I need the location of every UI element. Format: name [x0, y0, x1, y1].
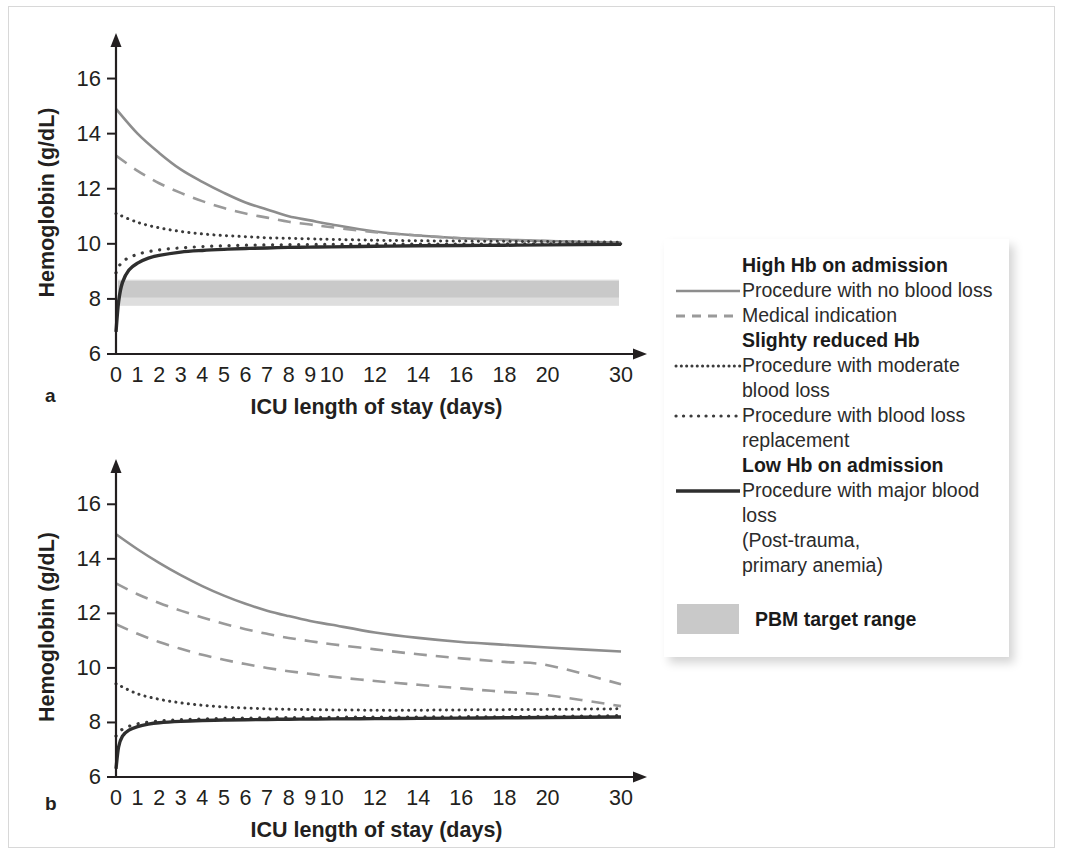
- y-axis-title: Hemoglobin (g/dL): [35, 532, 59, 722]
- x-tick-label: 2: [153, 363, 165, 387]
- x-tick-label: 14: [406, 786, 430, 810]
- legend-item[interactable]: Medical indication: [674, 303, 997, 328]
- y-tick-label: 16: [77, 491, 101, 516]
- series-line: [116, 214, 621, 243]
- legend-item-label: Procedure with moderate: [742, 353, 960, 378]
- x-tick-label: 16: [449, 786, 473, 810]
- x-tick-label: 30: [609, 786, 633, 810]
- legend-item-label-continued: primary anemia): [674, 553, 997, 578]
- x-axis-title: ICU length of stay (days): [250, 818, 502, 842]
- x-tick-label: 4: [196, 363, 208, 387]
- legend-band-sample: [674, 604, 742, 629]
- chart-panel-b: 6810121416012345678910121416182030ICU le…: [9, 447, 669, 857]
- legend-sample: [674, 303, 742, 328]
- legend-line-sample-solid-thick: [674, 478, 742, 503]
- legend-group-label: Low Hb on admission: [742, 453, 944, 478]
- legend-sample: [674, 403, 742, 428]
- y-axis-title: Hemoglobin (g/dL): [35, 108, 59, 298]
- legend-item[interactable]: Procedure with no blood loss: [674, 278, 997, 303]
- series-line: [116, 244, 621, 273]
- legend-item-label: Medical indication: [742, 303, 897, 328]
- x-tick-label: 7: [261, 786, 273, 810]
- legend-group-header: Low Hb on admission: [674, 453, 997, 478]
- y-tick-label: 14: [77, 121, 101, 146]
- legend-item-label: Procedure with major blood: [742, 478, 979, 503]
- x-tick-label: 20: [536, 363, 560, 387]
- x-tick-label: 6: [240, 786, 252, 810]
- legend-item-label-continued: (Post-trauma,: [674, 528, 997, 553]
- x-tick-label: 3: [175, 363, 187, 387]
- x-tick-label: 12: [363, 786, 387, 810]
- chart-panel-a: 6810121416012345678910121416182030ICU le…: [9, 11, 669, 443]
- legend-sample-spacer: [674, 328, 742, 353]
- x-tick-label: 16: [449, 363, 473, 387]
- y-tick-label: 16: [77, 66, 101, 91]
- y-tick-label: 10: [77, 655, 101, 680]
- pbm-band-swatch: [677, 604, 739, 634]
- y-axis-arrow: [111, 459, 122, 473]
- legend-sample: [674, 478, 742, 503]
- x-axis-title: ICU length of stay (days): [250, 395, 502, 419]
- x-tick-label: 14: [406, 363, 430, 387]
- legend-item-label-continued: blood loss: [674, 378, 997, 403]
- pbm-target-band: [118, 281, 619, 298]
- x-axis-arrow: [633, 772, 647, 783]
- series-line: [116, 684, 621, 710]
- y-tick-label: 12: [77, 176, 101, 201]
- x-tick-label: 0: [110, 786, 122, 810]
- y-tick-label: 8: [89, 709, 101, 734]
- legend-sample-spacer: [674, 253, 742, 278]
- legend-group-header: Slighty reduced Hb: [674, 328, 997, 353]
- x-axis-arrow: [633, 349, 647, 360]
- legend-entries: High Hb on admissionProcedure with no bl…: [664, 239, 1009, 644]
- y-tick-label: 14: [77, 546, 101, 571]
- legend-item-label: Procedure with blood loss: [742, 403, 965, 428]
- x-tick-label: 1: [132, 363, 144, 387]
- y-axis-arrow: [111, 33, 122, 47]
- x-tick-label: 5: [218, 786, 230, 810]
- panel-a-letter: a: [45, 385, 56, 407]
- x-tick-label: 30: [609, 363, 633, 387]
- chart-svg-b: 6810121416012345678910121416182030ICU le…: [9, 447, 669, 857]
- legend-item-label-continued: loss: [674, 503, 997, 528]
- legend-line-sample-dotted-coarse: [674, 403, 742, 428]
- x-tick-label: 4: [196, 786, 208, 810]
- pbm-band-label: PBM target range: [742, 604, 916, 634]
- series-line: [116, 534, 621, 651]
- series-line: [116, 583, 621, 684]
- legend-sample-spacer: [674, 453, 742, 478]
- legend-group-label: Slighty reduced Hb: [742, 328, 920, 353]
- x-tick-label: 1: [132, 786, 144, 810]
- series-line: [116, 109, 621, 243]
- x-tick-label: 9: [304, 786, 316, 810]
- x-tick-label: 9: [304, 363, 316, 387]
- y-tick-label: 6: [89, 764, 101, 789]
- x-tick-label: 18: [493, 786, 517, 810]
- x-tick-label: 20: [536, 786, 560, 810]
- x-tick-label: 6: [240, 363, 252, 387]
- legend-item-label-continued: replacement: [674, 428, 997, 453]
- chart-legend: High Hb on admissionProcedure with no bl…: [664, 239, 1009, 657]
- figure-frame: 6810121416012345678910121416182030ICU le…: [8, 6, 1055, 848]
- legend-item-label: Procedure with no blood loss: [742, 278, 992, 303]
- legend-item[interactable]: Procedure with moderate: [674, 353, 997, 378]
- x-tick-label: 8: [283, 363, 295, 387]
- legend-item[interactable]: Procedure with blood loss: [674, 403, 997, 428]
- x-tick-label: 5: [218, 363, 230, 387]
- x-tick-label: 10: [320, 786, 344, 810]
- legend-item[interactable]: Procedure with major blood: [674, 478, 997, 503]
- x-tick-label: 0: [110, 363, 122, 387]
- legend-sample: [674, 278, 742, 303]
- legend-line-sample-dashed: [674, 303, 742, 328]
- y-tick-label: 8: [89, 286, 101, 311]
- x-tick-label: 10: [320, 363, 344, 387]
- legend-group-label: High Hb on admission: [742, 253, 948, 278]
- x-tick-label: 12: [363, 363, 387, 387]
- series-line: [116, 717, 621, 769]
- y-tick-label: 12: [77, 600, 101, 625]
- legend-line-sample-dotted-fine: [674, 353, 742, 378]
- chart-svg-a: 6810121416012345678910121416182030ICU le…: [9, 11, 669, 443]
- legend-line-sample-solid: [674, 278, 742, 303]
- x-tick-label: 3: [175, 786, 187, 810]
- x-tick-label: 18: [493, 363, 517, 387]
